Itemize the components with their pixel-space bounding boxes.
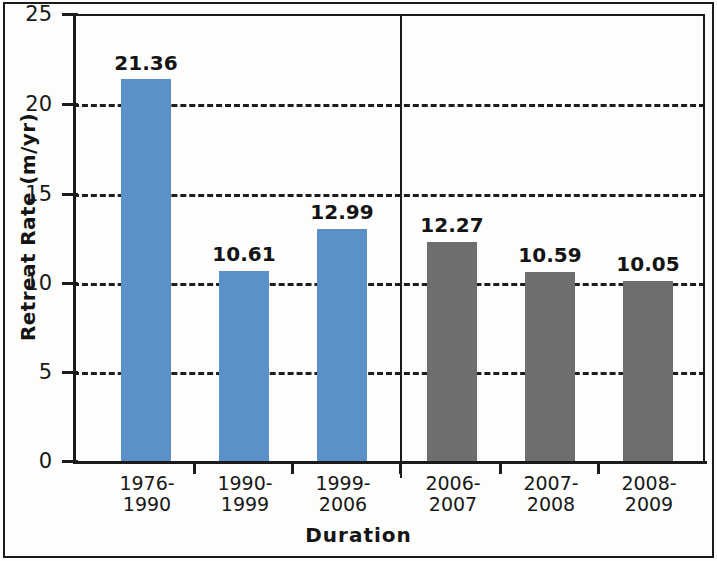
- bar-1990-1999[interactable]: [219, 271, 269, 461]
- x-tick-mark-1: [193, 461, 196, 474]
- x-category-line-1: 1976-: [104, 473, 190, 494]
- x-category-line-2: 1990: [104, 494, 190, 515]
- x-category-line-2: 2009: [606, 494, 692, 515]
- x-category-label-2007-2008: 2007- 2008: [508, 473, 594, 516]
- x-axis-line: [73, 461, 707, 464]
- value-label-1990-1999: 10.61: [204, 242, 284, 266]
- x-category-label-1990-1999: 1990- 1999: [202, 473, 288, 516]
- bar-2006-2007[interactable]: [427, 242, 477, 461]
- x-category-line-1: 2008-: [606, 473, 692, 494]
- x-category-line-1: 1990-: [202, 473, 288, 494]
- x-category-line-2: 2008: [508, 494, 594, 515]
- x-tick-mark-5: [597, 461, 600, 474]
- x-tick-mark-2: [291, 461, 294, 474]
- bar-1999-2006[interactable]: [317, 229, 367, 461]
- group-divider-line: [400, 14, 402, 478]
- value-label-2007-2008: 10.59: [510, 243, 590, 267]
- x-category-line-1: 1999-: [300, 473, 386, 494]
- x-category-line-2: 2007: [410, 494, 496, 515]
- x-axis-title: Duration: [0, 523, 717, 547]
- value-label-1976-1990: 21.36: [106, 51, 186, 75]
- x-category-line-2: 1999: [202, 494, 288, 515]
- bar-2008-2009[interactable]: [623, 281, 673, 461]
- value-label-1999-2006: 12.99: [302, 200, 382, 224]
- x-category-label-2006-2007: 2006- 2007: [410, 473, 496, 516]
- x-tick-mark-3: [399, 461, 402, 474]
- x-tick-mark-4: [499, 461, 502, 474]
- x-category-line-1: 2006-: [410, 473, 496, 494]
- x-category-label-1976-1990: 1976- 1990: [104, 473, 190, 516]
- value-label-2008-2009: 10.05: [608, 252, 688, 276]
- x-category-label-2008-2009: 2008- 2009: [606, 473, 692, 516]
- bar-1976-1990[interactable]: [121, 79, 171, 461]
- y-axis-title: Retreat Rate (m/yr): [16, 77, 40, 377]
- x-category-line-1: 2007-: [508, 473, 594, 494]
- bar-2007-2008[interactable]: [525, 272, 575, 461]
- x-category-line-2: 2006: [300, 494, 386, 515]
- x-category-label-1999-2006: 1999- 2006: [300, 473, 386, 516]
- figure-container: 25 20 15 10 5 0 21.36 10.61 12.99 12.27 …: [0, 0, 717, 561]
- value-label-2006-2007: 12.27: [412, 213, 492, 237]
